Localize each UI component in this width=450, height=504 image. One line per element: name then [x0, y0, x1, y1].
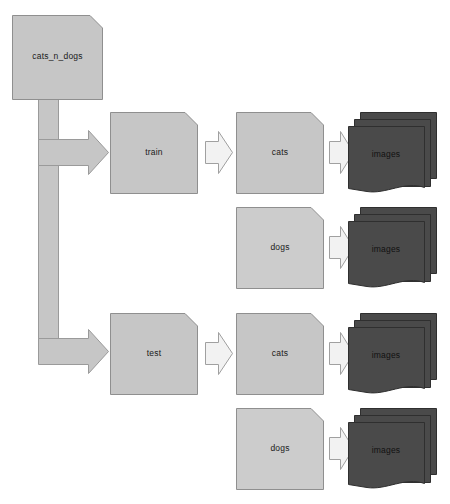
node-cats-n-dogs[interactable]: cats_n_dogs [13, 16, 103, 100]
node-test-cats-images[interactable]: images [349, 314, 437, 393]
connector-root-trunk [39, 100, 59, 357]
train-dogs-images-label: images [372, 244, 401, 254]
arrow-test-to-cats [206, 333, 233, 375]
test-folder-label: test [147, 348, 162, 358]
node-train-dogs[interactable]: dogs [237, 208, 324, 289]
arrow-train-to-cats [206, 132, 233, 174]
train-folder-label: train [145, 147, 163, 157]
node-train-dogs-images[interactable]: images [349, 208, 437, 287]
root-folder-label: cats_n_dogs [32, 51, 82, 61]
node-test-dogs[interactable]: dogs [237, 409, 324, 490]
dataset-structure-diagram: cats_n_dogs train cats images [0, 0, 450, 504]
train-cats-images-label: images [372, 149, 401, 159]
test-dogs-images-label: images [372, 445, 401, 455]
node-test-dogs-images[interactable]: images [349, 409, 437, 488]
node-train-cats-images[interactable]: images [349, 113, 437, 192]
train-dogs-folder-label: dogs [270, 242, 289, 252]
chevron-right-icon [206, 132, 233, 174]
train-cats-folder-label: cats [272, 147, 288, 157]
node-test[interactable]: test [111, 314, 198, 395]
test-cats-images-label: images [372, 350, 401, 360]
node-test-cats[interactable]: cats [237, 314, 324, 395]
diagram-canvas: cats_n_dogs train cats images [0, 0, 450, 504]
test-cats-folder-label: cats [272, 348, 288, 358]
node-train-cats[interactable]: cats [237, 113, 324, 194]
test-dogs-folder-label: dogs [270, 443, 289, 453]
connector-group [39, 100, 109, 374]
node-train[interactable]: train [111, 113, 198, 194]
chevron-right-icon [206, 333, 233, 375]
